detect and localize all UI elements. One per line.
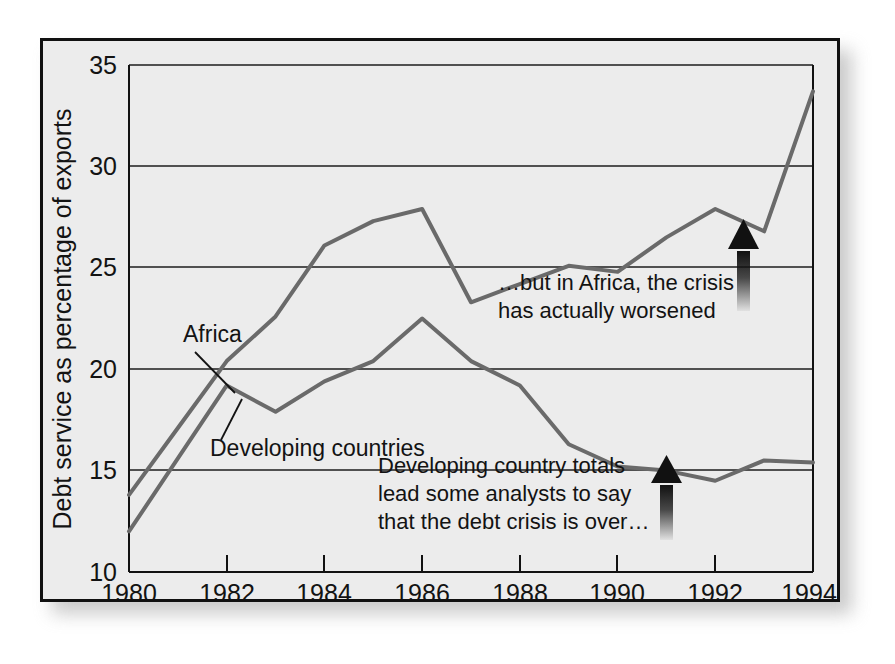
africa-annotation-line-1: …but in Africa, the crisis (498, 270, 734, 295)
x-tick-label-1992: 1992 (687, 579, 743, 599)
x-tick-label-1982: 1982 (199, 579, 255, 599)
x-tick-label-1990: 1990 (589, 579, 645, 599)
y-tick-labels: 35 30 25 20 15 10 (89, 51, 117, 586)
y-tick-label-15: 15 (89, 456, 117, 484)
leader-line-developing-countries (221, 399, 242, 440)
x-tick-label-1988: 1988 (492, 579, 548, 599)
line-chart-svg: 35 30 25 20 15 10 1980 1982 1984 1986 19… (43, 41, 837, 599)
plot-area: 35 30 25 20 15 10 1980 1982 1984 1986 19… (43, 41, 837, 599)
africa-annotation-line-2: has actually worsened (498, 298, 716, 323)
developing-annotation-line-2: lead some analysts to say (378, 481, 631, 506)
x-tick-labels: 1980 1982 1984 1986 1988 1990 1992 1994 (101, 579, 837, 599)
gridlines (129, 65, 813, 470)
y-tick-label-30: 30 (89, 152, 117, 180)
y-tick-label-35: 35 (89, 51, 117, 79)
africa-annotation: …but in Africa, the crisis has actually … (498, 219, 759, 323)
series-label-africa: Africa (183, 321, 242, 347)
africa-annotation-arrow-icon (728, 219, 759, 311)
developing-annotation-line-1: Developing country totals (378, 453, 625, 478)
developing-annotation: Developing country totals lead some anal… (378, 453, 682, 540)
x-tick-label-1980: 1980 (101, 579, 157, 599)
y-tick-label-20: 20 (89, 355, 117, 383)
x-tick-label-1994: 1994 (781, 579, 837, 599)
y-tick-label-25: 25 (89, 253, 117, 281)
x-tick-label-1986: 1986 (394, 579, 450, 599)
y-axis-title: Debt service as percentage of exports (48, 108, 76, 529)
series-callouts: Africa Developing countries (183, 321, 425, 461)
chart-panel: 35 30 25 20 15 10 1980 1982 1984 1986 19… (40, 38, 840, 602)
x-tick-marks (129, 555, 813, 572)
figure-container: 35 30 25 20 15 10 1980 1982 1984 1986 19… (0, 0, 895, 664)
developing-annotation-line-3: that the debt crisis is over… (378, 509, 649, 534)
x-tick-label-1984: 1984 (296, 579, 352, 599)
